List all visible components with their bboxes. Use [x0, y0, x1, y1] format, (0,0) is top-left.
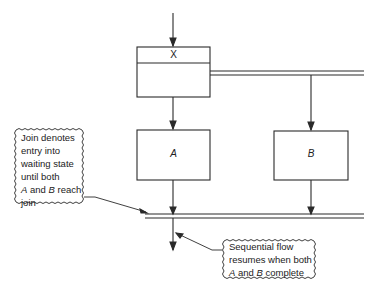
note-text: complete — [263, 267, 304, 278]
note-text: and — [235, 267, 256, 278]
join-note: Join denotes entry into waiting state un… — [21, 131, 81, 209]
note-line: until both — [21, 170, 81, 183]
note-line: A and B complete — [229, 266, 312, 279]
note-text: reach — [55, 184, 81, 195]
note-line: Sequential flow — [229, 240, 312, 253]
note-text: and — [27, 184, 48, 195]
box-b-label: B — [274, 148, 348, 159]
note-line: waiting state — [21, 157, 81, 170]
resume-note: Sequential flow resumes when both A and … — [229, 240, 312, 279]
note-line: entry into — [21, 144, 81, 157]
box-x-label: X — [137, 49, 210, 60]
note-line: Join denotes — [21, 131, 81, 144]
note-line: A and B reach — [21, 183, 81, 196]
note-line: join — [21, 196, 81, 209]
box-a-label: A — [137, 148, 210, 159]
note-line: resumes when both — [229, 253, 312, 266]
